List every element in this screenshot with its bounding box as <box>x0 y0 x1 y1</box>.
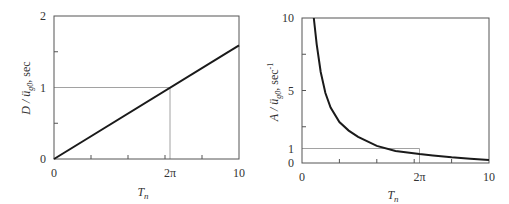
y-tick-label: 1 <box>40 81 46 95</box>
x-tick-label: 10 <box>233 166 245 180</box>
x-tick-label: 0 <box>51 166 57 180</box>
x-ticks <box>339 159 451 163</box>
x-ticks <box>91 155 202 159</box>
x-tick-label: 10 <box>483 170 495 184</box>
y-axis-title: A / üg0, sec-1 <box>266 63 283 122</box>
y-axis-title: D / üg0, sec <box>19 61 35 115</box>
y-tick-label: 0 <box>40 152 46 166</box>
figure: 0 1 2 0 2π 10 Tn D / üg0, sec <box>0 0 509 204</box>
acceleration-curve <box>314 18 489 160</box>
x-axis-title: Tn <box>137 185 149 201</box>
y-tick-label: 1 <box>288 142 294 156</box>
y-tick-label: 2 <box>40 9 46 23</box>
y-tick-label: 0 <box>288 156 294 170</box>
chart-acceleration: 0 1 5 10 0 2π 10 Tn A / üg0, sec-1 <box>266 11 495 204</box>
x-tick-label: 2π <box>164 166 176 180</box>
y-tick-label: 10 <box>282 11 294 25</box>
plot-frame <box>302 18 489 163</box>
displacement-curve <box>54 45 239 159</box>
y-tick-label: 5 <box>288 84 294 98</box>
x-tick-label: 2π <box>413 170 425 184</box>
x-tick-label: 0 <box>299 170 305 184</box>
x-axis-title: Tn <box>387 188 399 204</box>
y-ticks <box>302 54 306 127</box>
chart-displacement: 0 1 2 0 2π 10 Tn D / üg0, sec <box>19 9 245 201</box>
